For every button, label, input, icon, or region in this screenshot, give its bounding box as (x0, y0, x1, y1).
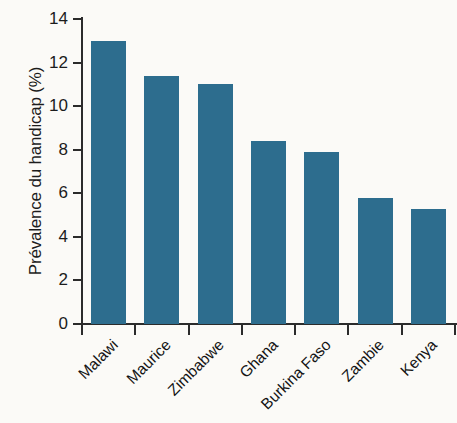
y-axis-tick-label: 10 (40, 96, 68, 116)
y-axis-tick-label: 6 (40, 183, 68, 203)
bar-chart-figure: Prévalence du handicap (%) 02468101214 M… (0, 0, 457, 423)
bar (198, 84, 233, 324)
x-axis-tick (241, 325, 243, 335)
y-axis-tick-label: 2 (40, 270, 68, 290)
bar (358, 198, 393, 324)
bar (251, 141, 286, 324)
y-axis-tick (73, 236, 82, 238)
y-axis-tick (73, 149, 82, 151)
y-axis-tick-label: 14 (40, 9, 68, 29)
x-axis-tick (188, 325, 190, 335)
y-axis-tick (73, 192, 82, 194)
x-axis-tick (81, 325, 83, 335)
y-axis-tick-label: 4 (40, 227, 68, 247)
y-axis-tick (73, 18, 82, 20)
y-axis-tick-label: 12 (40, 53, 68, 73)
bar (411, 209, 446, 324)
y-axis-tick-label: 8 (40, 140, 68, 160)
bar (304, 152, 339, 324)
x-axis-tick (347, 325, 349, 335)
x-axis-tick (294, 325, 296, 335)
x-axis-tick (454, 325, 456, 335)
y-axis-tick-label: 0 (40, 314, 68, 334)
y-axis-tick (73, 105, 82, 107)
x-axis-tick (134, 325, 136, 335)
bar (144, 76, 179, 324)
bar (91, 41, 126, 324)
x-axis-tick (401, 325, 403, 335)
y-axis-tick (73, 279, 82, 281)
y-axis-tick (73, 62, 82, 64)
plot-area (82, 19, 455, 324)
